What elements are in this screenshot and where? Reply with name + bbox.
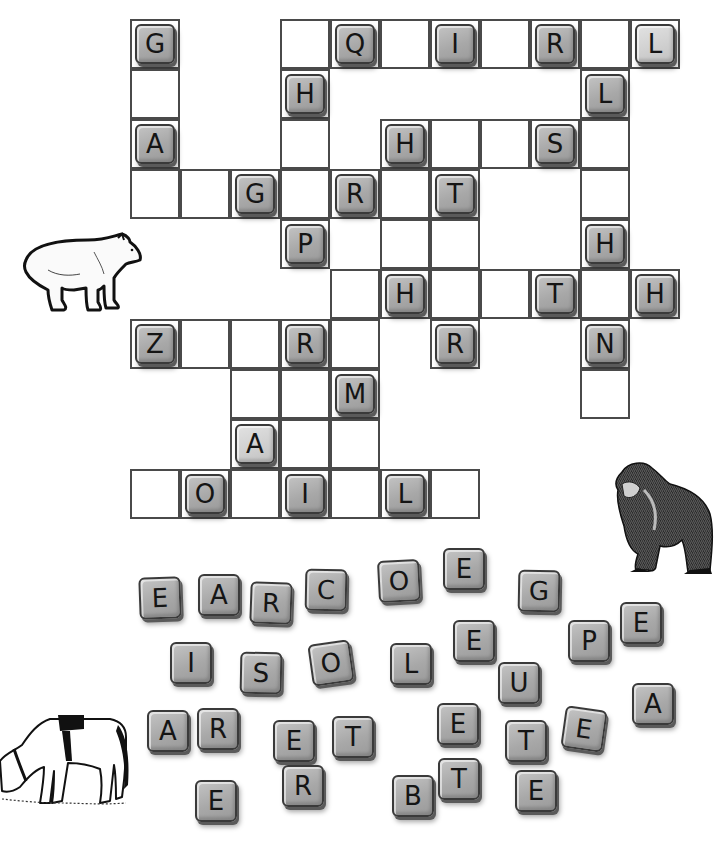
loose-letter-tile[interactable]: S [240,652,283,695]
loose-letter-tile[interactable]: T [438,758,480,800]
grid-cell[interactable]: P [280,219,330,269]
loose-letter-tile[interactable]: R [197,708,239,750]
loose-letter-tile[interactable]: I [170,642,212,684]
grid-cell[interactable]: I [280,469,330,519]
grid-cell[interactable] [580,119,630,169]
grid-cell[interactable]: L [630,19,680,69]
letter-tile: R [435,324,475,364]
grid-cell[interactable]: Q [330,19,380,69]
grid-cell[interactable] [480,19,530,69]
grid-cell[interactable]: O [180,469,230,519]
gorilla-icon [600,460,718,578]
grid-cell[interactable]: R [530,19,580,69]
grid-cell[interactable]: H [580,219,630,269]
letter-tile: T [535,274,575,314]
loose-letter-tile[interactable]: E [273,720,315,762]
loose-letter-tile[interactable]: T [332,716,374,758]
grid-cell[interactable] [480,119,530,169]
loose-letter-tile[interactable]: E [443,548,485,590]
grid-cell[interactable]: Z [130,319,180,369]
grid-cell[interactable] [380,19,430,69]
letter-tile: M [335,374,375,414]
loose-letter-tile[interactable]: A [198,574,240,616]
loose-letter-tile[interactable]: R [282,765,324,807]
grid-cell[interactable] [580,19,630,69]
letter-tile: H [285,74,325,114]
loose-letter-tile[interactable]: E [515,770,557,812]
grid-cell[interactable]: N [580,319,630,369]
grid-cell[interactable] [280,169,330,219]
grid-cell[interactable]: L [580,69,630,119]
loose-letter-tile[interactable]: E [620,602,662,644]
grid-cell[interactable] [580,369,630,419]
grid-cell[interactable] [430,119,480,169]
letter-tile: H [385,274,425,314]
loose-letter-tile[interactable]: A [147,710,189,752]
grid-cell[interactable]: T [530,269,580,319]
loose-letter-tile[interactable]: P [568,620,610,662]
grid-cell[interactable] [380,219,430,269]
grid-cell[interactable]: A [230,419,280,469]
letter-tile: O [185,474,225,514]
crossword-board: GQIRLHLAHSGRTPHHTHZRRNMAOIL EARCOEGISOLE… [0,0,724,849]
grid-cell[interactable]: T [430,169,480,219]
grid-cell[interactable] [180,319,230,369]
grid-cell[interactable] [130,469,180,519]
loose-letter-tile[interactable]: A [632,683,674,725]
letter-tile: Q [335,24,375,64]
grid-cell[interactable] [330,469,380,519]
grid-cell[interactable] [280,369,330,419]
grid-cell[interactable]: A [130,119,180,169]
grid-cell[interactable]: R [430,319,480,369]
loose-letter-tile[interactable]: E [453,620,495,662]
grid-cell[interactable] [480,269,530,319]
grid-cell[interactable]: R [280,319,330,369]
loose-letter-tile[interactable]: E [138,576,181,619]
grid-cell[interactable] [230,319,280,369]
grid-cell[interactable] [430,219,480,269]
grid-cell[interactable] [580,169,630,219]
grid-cell[interactable]: H [280,69,330,119]
grid-cell[interactable]: M [330,369,380,419]
letter-tile: T [435,174,475,214]
grid-cell[interactable]: G [130,19,180,69]
loose-letter-tile[interactable]: B [392,775,434,817]
grid-cell[interactable]: I [430,19,480,69]
loose-letter-tile[interactable]: L [390,643,432,685]
grid-cell[interactable] [230,469,280,519]
grid-cell[interactable] [280,19,330,69]
loose-letter-tile[interactable]: C [305,569,348,612]
grid-cell[interactable] [180,169,230,219]
letter-tile: N [585,324,625,364]
grid-cell[interactable] [380,169,430,219]
grid-cell[interactable] [330,319,380,369]
grid-cell[interactable]: G [230,169,280,219]
loose-letter-tile[interactable]: G [518,570,561,613]
loose-letter-tile[interactable]: T [505,720,547,762]
grid-cell[interactable]: H [380,119,430,169]
loose-letter-tile[interactable]: O [307,639,354,686]
loose-letter-tile[interactable]: E [560,705,607,752]
grid-cell[interactable]: R [330,169,380,219]
letter-tile: I [285,474,325,514]
loose-letter-tile[interactable]: U [498,662,540,704]
grid-cell[interactable] [280,419,330,469]
loose-letter-tile[interactable]: O [377,559,421,603]
loose-letter-tile[interactable]: R [249,581,292,624]
letter-tile: P [285,224,325,264]
grid-cell[interactable]: H [380,269,430,319]
grid-cell[interactable] [580,269,630,319]
grid-cell[interactable] [330,419,380,469]
grid-cell[interactable] [130,169,180,219]
grid-cell[interactable]: S [530,119,580,169]
grid-cell[interactable] [230,369,280,419]
grid-cell[interactable] [280,119,330,169]
grid-cell[interactable]: L [380,469,430,519]
loose-letter-tile[interactable]: E [437,703,479,745]
grid-cell[interactable] [130,69,180,119]
grid-cell[interactable] [430,269,480,319]
grid-cell[interactable] [430,469,480,519]
grid-cell[interactable]: H [630,269,680,319]
loose-letter-tile[interactable]: E [195,780,237,822]
grid-cell[interactable] [330,269,380,319]
